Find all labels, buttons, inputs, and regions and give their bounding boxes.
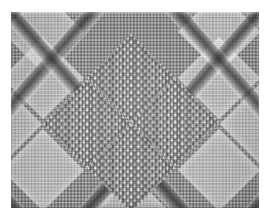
fabric-swatch: [11, 12, 259, 208]
image-canvas: [0, 0, 268, 221]
image-caption: [11, 197, 259, 208]
